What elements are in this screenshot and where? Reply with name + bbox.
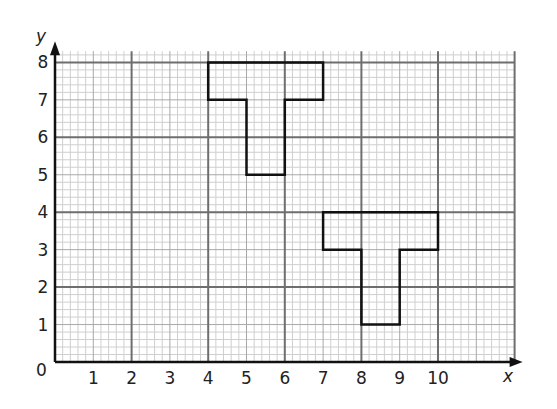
coordinate-grid-diagram: 1234567891012345678 x y 0 <box>0 0 557 409</box>
tick-labels: 1234567891012345678 <box>38 52 449 388</box>
y-tick-label: 5 <box>38 165 49 185</box>
x-tick-label: 2 <box>126 368 137 388</box>
x-axis-label: x <box>502 366 514 386</box>
x-tick-label: 7 <box>318 368 329 388</box>
y-tick-label: 3 <box>38 240 49 260</box>
y-axis-label: y <box>35 26 47 46</box>
x-tick-label: 10 <box>427 368 449 388</box>
y-tick-label: 1 <box>38 315 49 335</box>
t-shape <box>208 62 323 174</box>
x-tick-label: 1 <box>88 368 99 388</box>
origin-label: 0 <box>36 360 47 380</box>
x-tick-label: 3 <box>164 368 175 388</box>
x-tick-label: 8 <box>356 368 367 388</box>
t-shape <box>323 212 438 324</box>
x-tick-label: 9 <box>394 368 405 388</box>
x-tick-label: 6 <box>279 368 290 388</box>
x-tick-label: 5 <box>241 368 252 388</box>
y-tick-label: 8 <box>38 52 49 72</box>
y-tick-label: 6 <box>38 127 49 147</box>
y-tick-label: 7 <box>38 90 49 110</box>
y-tick-label: 2 <box>38 277 49 297</box>
x-tick-label: 4 <box>203 368 214 388</box>
axes <box>50 41 523 367</box>
y-axis-arrow-icon <box>50 41 60 55</box>
y-tick-label: 4 <box>38 202 49 222</box>
